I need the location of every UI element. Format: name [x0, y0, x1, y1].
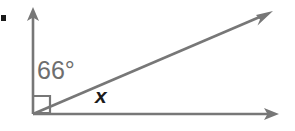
angle-diagram-figure: 66° x [0, 0, 295, 131]
known-angle-label: 66° [37, 58, 75, 83]
unknown-angle-label: x [95, 85, 107, 106]
